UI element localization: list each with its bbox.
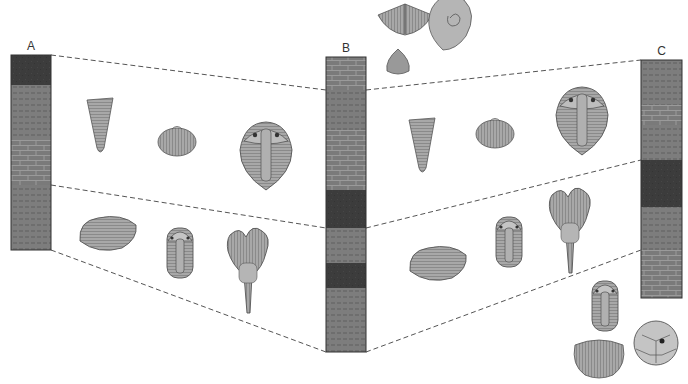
- fossil-brachiopod-spiriferid-round: [574, 340, 624, 378]
- limestone-layer: [641, 250, 682, 298]
- column-label-a: A: [11, 39, 51, 53]
- fossil-trilobite-small: [496, 217, 522, 267]
- fossil-brachiopod-small: [387, 49, 410, 74]
- column-label-b: B: [326, 41, 366, 55]
- shale-layer: [326, 228, 366, 263]
- limestone-layer: [326, 57, 366, 90]
- fossil-bivalve: [80, 217, 136, 251]
- sandstone-layer: [11, 55, 51, 85]
- rock-column-a: [11, 55, 51, 250]
- rock-column-b: [326, 57, 366, 352]
- rock-column-c: [641, 60, 682, 298]
- fossil-horn-coral: [87, 98, 113, 152]
- limestone-layer: [641, 105, 682, 125]
- shale-layer: [641, 207, 682, 250]
- fossil-horn-coral: [409, 118, 435, 172]
- shale-layer: [11, 85, 51, 140]
- fossil-trilobite-large: [556, 87, 608, 155]
- fossil-ammonoid: [429, 0, 472, 50]
- shale-layer: [11, 185, 51, 250]
- sandstone-layer: [326, 263, 366, 288]
- fossil-trilobite-small: [592, 281, 618, 331]
- fossil-brachiopod: [476, 119, 514, 149]
- fossil-crinoid: [227, 228, 268, 313]
- stratigraphic-correlation-diagram: ABC: [0, 0, 688, 384]
- diagram-canvas: [0, 0, 688, 384]
- fossil-brachiopod: [158, 127, 196, 157]
- limestone-layer: [326, 130, 366, 190]
- shale-layer: [326, 90, 366, 130]
- shale-layer: [326, 288, 366, 352]
- limestone-layer: [11, 140, 51, 185]
- sandstone-layer: [641, 160, 682, 207]
- correlation-line: [51, 55, 326, 90]
- fossil-trilobite-large: [240, 122, 292, 190]
- shale-layer: [641, 60, 682, 105]
- shale-layer: [641, 125, 682, 160]
- column-label-c: C: [642, 44, 682, 58]
- fossil-crinoid: [549, 188, 590, 273]
- fossil-cystoid: [634, 321, 678, 365]
- fossil-trilobite-small: [167, 228, 193, 278]
- sandstone-layer: [326, 190, 366, 228]
- fossil-bivalve: [410, 247, 466, 281]
- fossils: [80, 0, 678, 378]
- fossil-brachiopod-spiriferid: [378, 4, 432, 35]
